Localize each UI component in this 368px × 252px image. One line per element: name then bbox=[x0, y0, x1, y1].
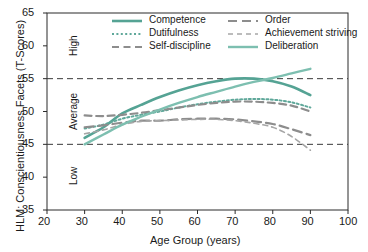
legend-label-dutifulness: Dutifulness bbox=[149, 27, 198, 38]
legend-label-achievement-striving: Achievement striving bbox=[265, 27, 357, 38]
legend-label-self-discipline: Self-discipline bbox=[149, 40, 211, 51]
x-axis-title: Age Group (years) bbox=[150, 234, 240, 246]
band-label-high: High bbox=[68, 36, 79, 57]
x-tick-label-70: 70 bbox=[226, 215, 238, 227]
x-tick-label-50: 50 bbox=[151, 215, 163, 227]
x-tick-label-80: 80 bbox=[264, 215, 276, 227]
x-tick-label-90: 90 bbox=[301, 215, 313, 227]
y-axis-title: HLM: Conscientiousness Facets (T-Scores) bbox=[14, 20, 26, 232]
x-tick-label-40: 40 bbox=[113, 215, 125, 227]
x-tick-label-60: 60 bbox=[189, 215, 201, 227]
chart-figure: 203040506070809010035404550556065HighAve… bbox=[0, 0, 368, 252]
series-line-deliberation bbox=[85, 69, 311, 145]
x-tick-label-100: 100 bbox=[339, 215, 357, 227]
x-tick-label-20: 20 bbox=[38, 215, 50, 227]
y-tick-label-65: 65 bbox=[22, 6, 34, 18]
legend-label-deliberation: Deliberation bbox=[265, 40, 318, 51]
legend-label-competence: Competence bbox=[149, 14, 206, 25]
band-label-average: Average bbox=[68, 93, 79, 130]
x-tick-label-30: 30 bbox=[76, 215, 88, 227]
band-label-low: Low bbox=[68, 167, 79, 185]
legend-label-order: Order bbox=[265, 14, 291, 25]
